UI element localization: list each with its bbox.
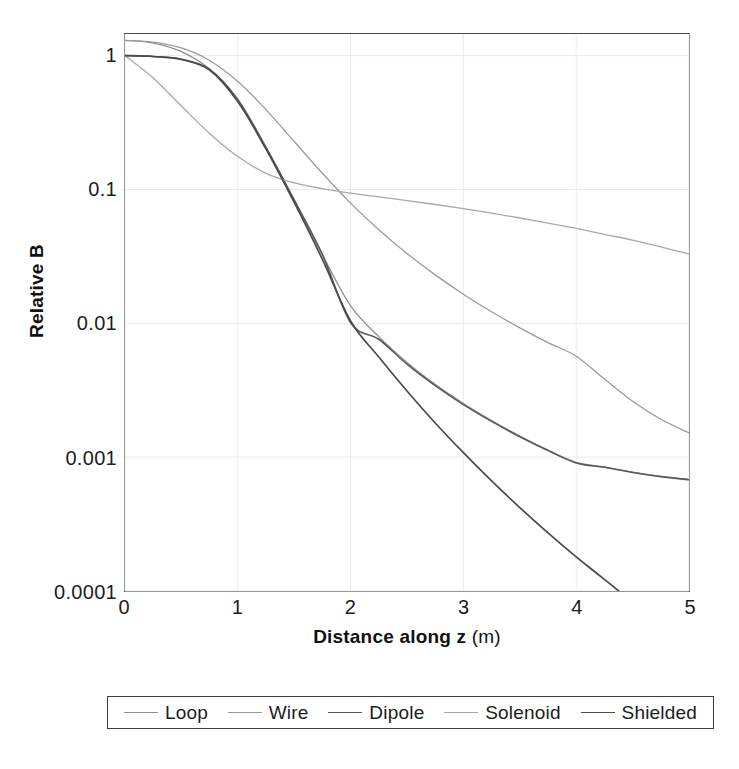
legend-item-dipole[interactable]: Dipole <box>328 702 424 724</box>
x-tick-label: 5 <box>684 596 695 619</box>
legend-line-swatch <box>581 712 615 713</box>
y-tick-label: 0.01 <box>77 312 117 335</box>
x-tick-label: 0 <box>118 596 129 619</box>
x-axis-title: Distance along z (m) <box>124 626 690 648</box>
series-lines <box>125 34 689 591</box>
legend-line-swatch <box>328 712 362 713</box>
legend-line-swatch <box>228 712 262 713</box>
chart-figure: 10.10.010.0010.0001 012345 Distance alon… <box>0 0 739 769</box>
x-axis-ticks: 012345 <box>124 596 690 624</box>
y-tick-label: 0.001 <box>65 446 117 469</box>
legend-label: Loop <box>165 702 208 724</box>
legend-line-swatch <box>444 712 478 713</box>
x-axis-title-unit: (m) <box>466 626 501 647</box>
legend-line-swatch <box>124 712 158 713</box>
legend-item-wire[interactable]: Wire <box>228 702 309 724</box>
x-axis-title-main: Distance along z <box>313 626 466 647</box>
y-tick-label: 0.1 <box>88 178 117 201</box>
series-line-wire <box>125 40 689 432</box>
y-axis-title: Relative B <box>26 191 48 391</box>
x-tick-label: 1 <box>232 596 243 619</box>
x-tick-label: 2 <box>345 596 356 619</box>
y-axis-ticks: 10.10.010.0010.0001 <box>0 33 117 592</box>
legend-label: Solenoid <box>485 702 561 724</box>
series-line-shielded <box>125 56 689 648</box>
legend-label: Wire <box>269 702 309 724</box>
legend-item-shielded[interactable]: Shielded <box>581 702 698 724</box>
chart-legend: LoopWireDipoleSolenoidShielded <box>107 696 714 729</box>
legend-label: Shielded <box>622 702 698 724</box>
legend-item-solenoid[interactable]: Solenoid <box>444 702 561 724</box>
y-tick-label: 1 <box>106 43 117 66</box>
y-tick-label: 0.0001 <box>54 581 117 604</box>
x-tick-label: 4 <box>571 596 582 619</box>
legend-label: Dipole <box>369 702 424 724</box>
x-tick-label: 3 <box>458 596 469 619</box>
series-line-dipole <box>125 56 689 480</box>
legend-item-loop[interactable]: Loop <box>124 702 208 724</box>
plot-area <box>124 33 690 592</box>
series-line-loop <box>125 40 689 479</box>
series-line-solenoid <box>125 56 689 254</box>
